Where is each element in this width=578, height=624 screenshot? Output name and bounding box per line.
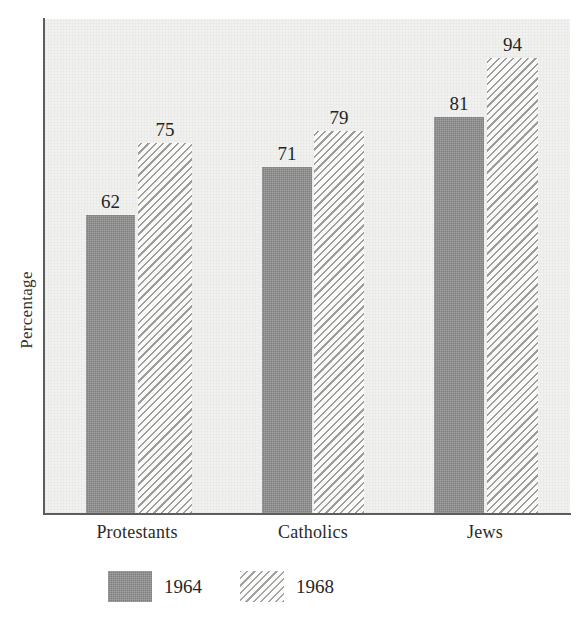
legend-item-1964[interactable]: 1964: [108, 571, 202, 602]
bar-rect[interactable]: [314, 131, 364, 513]
legend-swatch-hatch-icon: [240, 571, 284, 602]
bar-catholics-1964[interactable]: 71: [262, 0, 312, 513]
bar-value-label: 81: [450, 94, 469, 113]
legend-label: 1964: [164, 576, 202, 598]
bar-jews-1968[interactable]: 94: [487, 0, 538, 513]
x-axis-label-catholics: Catholics: [245, 522, 381, 543]
bar-jews-1964[interactable]: 81: [434, 0, 484, 513]
bars-layer: 62 75 71 79 81 94: [0, 0, 578, 513]
bar-rect[interactable]: [487, 58, 538, 513]
bar-rect[interactable]: [138, 143, 192, 513]
bar-rect[interactable]: [262, 167, 312, 513]
bar-value-label: 94: [503, 35, 522, 54]
bar-value-label: 62: [101, 192, 120, 211]
bar-chart-figure: Percentage 62 75 71 79 81 94: [0, 0, 578, 624]
bar-rect[interactable]: [86, 215, 135, 513]
x-axis-label-protestants: Protestants: [62, 522, 212, 543]
legend: 1964 1968: [108, 571, 334, 602]
bar-protestants-1964[interactable]: 62: [86, 0, 135, 513]
legend-swatch-solid-icon: [108, 571, 152, 602]
bar-value-label: 75: [156, 120, 175, 139]
x-axis-label-jews: Jews: [430, 522, 540, 543]
bar-protestants-1968[interactable]: 75: [138, 0, 192, 513]
legend-label: 1968: [296, 576, 334, 598]
bar-catholics-1968[interactable]: 79: [314, 0, 364, 513]
bar-rect[interactable]: [434, 117, 484, 513]
bar-value-label: 71: [278, 144, 297, 163]
bar-value-label: 79: [330, 108, 349, 127]
legend-item-1968[interactable]: 1968: [240, 571, 334, 602]
x-axis-line: [43, 513, 571, 515]
